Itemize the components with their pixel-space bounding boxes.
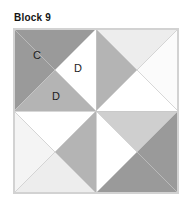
page-canvas: Block 9 <box>0 0 189 210</box>
seam-lines <box>14 29 178 193</box>
quilt-block-svg <box>14 29 178 193</box>
quilt-block-diagram: C D D <box>14 29 178 193</box>
page-title: Block 9 <box>14 12 51 24</box>
